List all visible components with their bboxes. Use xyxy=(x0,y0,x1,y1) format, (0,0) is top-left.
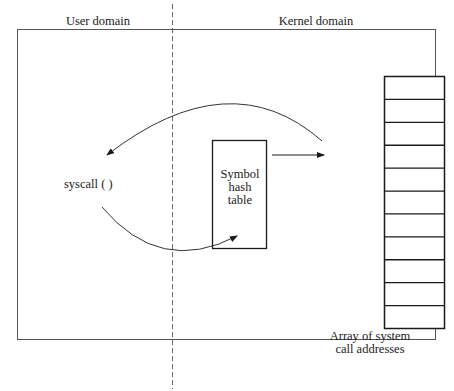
syscall-label: syscall ( ) xyxy=(64,177,113,191)
array-caption-line-2: call addresses xyxy=(320,343,420,356)
array-caption: Array of system call addresses xyxy=(320,330,420,356)
user-domain-label: User domain xyxy=(60,14,136,28)
syscall-address-array xyxy=(385,77,445,329)
kernel-domain-label: Kernel domain xyxy=(268,14,364,28)
symbol-hash-table-line-3: table xyxy=(212,194,268,207)
symbol-hash-table-label: Symbol hash table xyxy=(212,168,268,207)
